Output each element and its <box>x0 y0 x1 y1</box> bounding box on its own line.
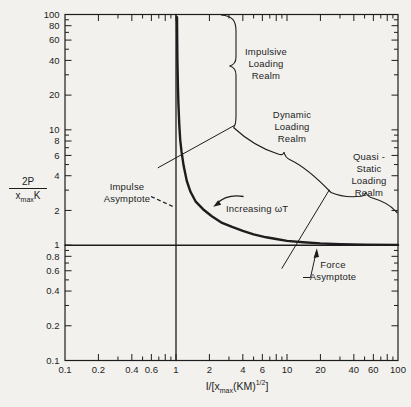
label-force-asymptote: Force Asymptote <box>310 259 357 283</box>
y-tick-label: 1 <box>54 239 59 250</box>
label-dynamic-loading-realm: Dynamic Loading Realm <box>273 109 311 145</box>
force-asymptote-arrowhead-icon <box>314 248 319 258</box>
x-tick-label: 40 <box>349 364 360 375</box>
x-tick-label: 100 <box>390 364 406 375</box>
y-axis-title: 2P xmaxK <box>5 176 51 203</box>
y-tick-label: 20 <box>49 89 60 100</box>
y-tick-label: 2 <box>54 205 59 216</box>
shock-loading-design-chart: 0.10.20.40.61246102040601001008060402010… <box>0 0 411 407</box>
chart-canvas: 0.10.20.40.61246102040601001008060402010… <box>0 0 411 407</box>
y-tick-label: 40 <box>49 55 60 66</box>
x-tick-label: 0.6 <box>145 364 158 375</box>
x-tick-label: 6 <box>260 364 265 375</box>
x-tick-label: 0.4 <box>125 364 138 375</box>
x-tick-label: 10 <box>282 364 293 375</box>
y-tick-label: 100 <box>44 9 60 20</box>
label-impulsive-loading-realm: Impulsive Loading Realm <box>245 46 287 82</box>
x-axis-title: I/[xmax(KM)1/2] <box>167 379 307 394</box>
series-impulsive_dynamic_boundary <box>158 126 234 168</box>
impulse-asymptote-leader <box>151 197 175 208</box>
x-tick-label: 0.2 <box>92 364 105 375</box>
y-tick-label: 8 <box>54 135 59 146</box>
y-tick-label: 10 <box>49 124 60 135</box>
y-tick-label: 80 <box>49 20 60 31</box>
label-increasing-omega-t: Increasing ωT <box>226 203 288 215</box>
y-tick-label: 6 <box>54 150 59 161</box>
label-quasi-static-loading-realm: Quasi - Static Loading Realm <box>348 151 390 199</box>
y-tick-label: 0.8 <box>46 251 59 262</box>
y-axis-title-numerator: 2P <box>5 176 51 188</box>
y-tick-label: 4 <box>54 170 59 181</box>
y-tick-label: 0.1 <box>46 355 59 366</box>
y-tick-label: 60 <box>49 34 60 45</box>
x-tick-label: 60 <box>368 364 379 375</box>
y-tick-label: 0.2 <box>46 320 59 331</box>
x-tick-label: 2 <box>207 364 212 375</box>
y-tick-label: 0.4 <box>46 285 59 296</box>
increasing-omega-arrow <box>217 196 244 203</box>
y-tick-label: 0.6 <box>46 265 59 276</box>
label-impulse-asymptote: Impulse Asymptote <box>104 181 151 205</box>
x-tick-label: 20 <box>315 364 326 375</box>
brace-impulsive-realm <box>221 15 236 128</box>
x-tick-label: 4 <box>240 364 245 375</box>
x-tick-label: 0.1 <box>58 364 71 375</box>
series-dynamic_quasistatic_boundary <box>282 190 329 268</box>
y-axis-title-denominator: xmaxK <box>9 188 47 203</box>
x-tick-label: 1 <box>173 364 178 375</box>
